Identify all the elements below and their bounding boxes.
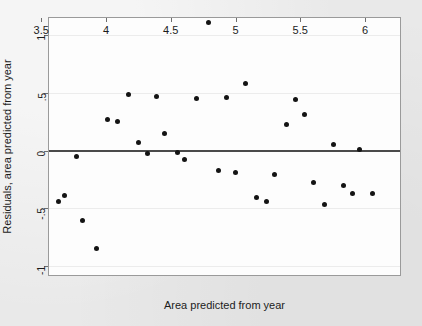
y-tick-label: 0 <box>37 151 48 157</box>
data-point <box>331 142 336 147</box>
data-point <box>341 183 346 188</box>
gridline-y <box>49 266 400 267</box>
data-point <box>243 81 248 86</box>
x-tick-label: 5 <box>232 24 238 36</box>
x-tick-label: 3.5 <box>34 24 49 36</box>
gridline-y <box>49 208 400 209</box>
data-point <box>264 199 269 204</box>
data-point <box>94 246 99 251</box>
y-tick-label: -.5 <box>37 208 48 220</box>
data-point <box>272 172 277 177</box>
data-point <box>311 180 316 185</box>
data-point <box>194 96 199 101</box>
data-point <box>105 117 110 122</box>
x-tick-label: 4 <box>103 24 109 36</box>
data-point <box>293 97 298 102</box>
data-point <box>370 191 375 196</box>
data-point <box>322 202 327 207</box>
x-tick-label: 6 <box>362 24 368 36</box>
x-tick-mark <box>365 18 366 22</box>
plot-frame: 1.50-.5-13.544.555.56 <box>48 17 401 276</box>
data-point <box>302 112 307 117</box>
y-tick-label: .5 <box>37 93 48 101</box>
figure-container: 1.50-.5-13.544.555.56 Area predicted fro… <box>0 0 422 326</box>
data-point <box>74 154 79 159</box>
y-axis-title: Residuals, area predicted from year <box>0 17 14 276</box>
data-point <box>80 218 85 223</box>
data-point <box>136 140 141 145</box>
data-point <box>154 94 159 99</box>
data-point <box>224 95 229 100</box>
data-point <box>216 168 221 173</box>
x-tick-mark <box>300 18 301 22</box>
data-point <box>162 131 167 136</box>
gridline-y <box>49 35 400 36</box>
data-point <box>284 122 289 127</box>
y-tick-label: 1 <box>37 35 48 41</box>
data-point <box>62 193 67 198</box>
plot-area: 1.50-.5-13.544.555.56 <box>49 18 400 275</box>
data-point <box>175 150 180 155</box>
x-tick-mark <box>236 18 237 22</box>
y-tick-label: -1 <box>37 266 48 275</box>
x-tick-mark <box>106 18 107 22</box>
data-point <box>350 191 355 196</box>
x-tick-label: 5.5 <box>293 24 308 36</box>
data-point <box>115 119 120 124</box>
x-tick-mark <box>41 18 42 22</box>
data-point <box>182 157 187 162</box>
data-point <box>56 199 61 204</box>
x-axis-title: Area predicted from year <box>48 299 401 311</box>
data-point <box>254 195 259 200</box>
data-point <box>126 92 131 97</box>
gridline-y <box>49 93 400 94</box>
data-point <box>145 151 150 156</box>
data-point <box>233 170 238 175</box>
zero-reference-line <box>49 150 400 152</box>
x-tick-mark <box>171 18 172 22</box>
x-tick-label: 4.5 <box>163 24 178 36</box>
data-point <box>206 20 211 25</box>
